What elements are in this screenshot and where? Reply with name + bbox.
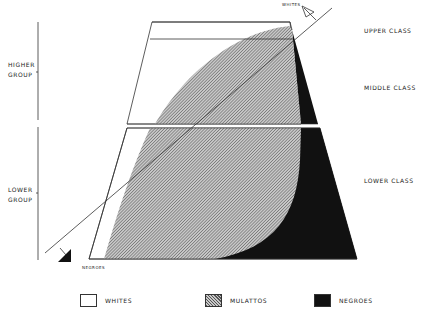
lower-group-brace [36, 127, 38, 260]
whites-arrow-icon [302, 6, 316, 20]
lower-class-label: LOWER CLASS [364, 176, 414, 186]
legend-label-negroes: NEGROES [339, 296, 373, 306]
higher-group-label-line1: HIGHER [8, 60, 35, 70]
higher-group-label: HIGHER GROUP [8, 60, 35, 80]
pyramid-diagram [0, 0, 421, 318]
upper-class-label: UPPER CLASS [364, 26, 412, 36]
higher-group-brace [36, 22, 38, 120]
legend-swatch-mulattos [205, 294, 222, 307]
lower-group-section [89, 128, 357, 259]
legend-label-whites: WHITES [105, 296, 132, 306]
negroes-arrow-label: NEGROES [82, 263, 105, 273]
whites-arrow-label: WHITES [282, 0, 301, 10]
higher-group-label-line2: GROUP [8, 70, 35, 80]
middle-class-label: MIDDLE CLASS [364, 83, 416, 93]
higher-group-section [127, 22, 318, 124]
legend-swatch-whites [80, 294, 97, 307]
negroes-arrow-icon [58, 248, 71, 262]
lower-group-label-line1: LOWER [8, 185, 33, 195]
lower-group-label-line2: GROUP [8, 195, 33, 205]
legend-swatch-negroes [314, 294, 331, 307]
lower-group-label: LOWER GROUP [8, 185, 33, 205]
legend-label-mulattos: MULATTOS [230, 296, 267, 306]
